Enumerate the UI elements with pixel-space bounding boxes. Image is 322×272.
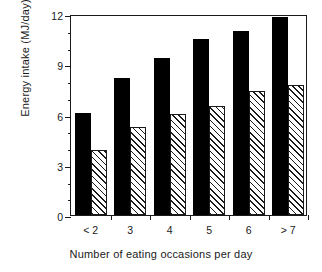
y-tick-minor [68,33,72,34]
bar-solid-series-5 [272,17,288,215]
y-tick-minor [68,83,72,84]
bar-hatched-series-5 [288,85,304,215]
y-tick-minor [68,133,72,134]
y-tick-major [65,217,71,218]
x-tick [269,215,270,220]
x-tick-label: 3 [127,224,133,236]
x-axis-title: Number of eating occasions per day [0,248,322,260]
bar-solid-series-3 [193,39,209,215]
x-tick [150,215,151,220]
y-tick-major [65,117,71,118]
x-tick [111,215,112,220]
x-tick [308,215,309,220]
y-axis-title: Energy intake (MJ/day) [19,0,31,153]
y-tick-minor [68,150,72,151]
x-tick-label: > 7 [281,224,296,236]
y-tick-minor [68,184,72,185]
y-tick-minor [68,200,72,201]
bar-hatched-series-2 [170,114,186,215]
x-tick-label: < 2 [83,224,98,236]
y-tick-label: 12 [51,10,63,22]
bar-hatched-series-3 [209,106,225,215]
plot-area: 036912 < 23456> 7 [70,15,307,216]
x-tick-label: 4 [167,224,173,236]
y-tick-label: 3 [57,161,63,173]
x-tick [190,215,191,220]
bar-solid-series-0 [75,113,91,215]
chart-figure: Energy intake (MJ/day) 036912 < 23456> 7… [0,0,322,272]
bar-solid-series-4 [233,31,249,215]
x-tick-label: 6 [246,224,252,236]
y-tick-major [65,16,71,17]
y-tick-label: 0 [57,211,63,223]
y-tick-minor [68,50,72,51]
y-tick-major [65,167,71,168]
bar-solid-series-2 [154,58,170,215]
bar-hatched-series-1 [130,127,146,215]
y-tick-label: 6 [57,111,63,123]
y-tick-label: 9 [57,60,63,72]
y-tick-minor [68,100,72,101]
bar-hatched-series-0 [91,150,107,215]
x-tick [229,215,230,220]
bar-hatched-series-4 [249,91,265,215]
bar-solid-series-1 [114,78,130,215]
y-tick-major [65,66,71,67]
x-tick-label: 5 [206,224,212,236]
